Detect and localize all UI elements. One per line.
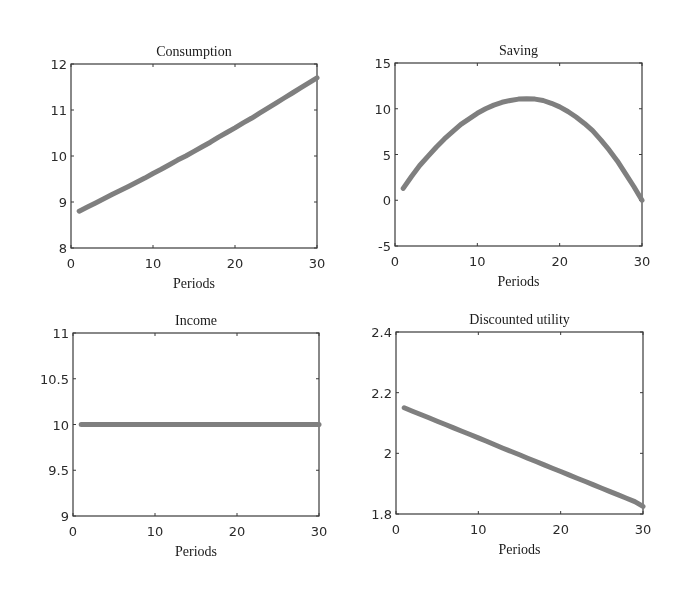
x-tick-label: 10 [470, 522, 487, 537]
x-tick-label: 30 [635, 522, 652, 537]
y-tick-label: 1.8 [371, 507, 392, 522]
subplot-svg: Discounted utilityPeriods01020301.822.22… [0, 0, 680, 594]
x-tick-label: 20 [552, 522, 569, 537]
y-tick-label: 2.2 [371, 386, 392, 401]
y-tick-label: 2 [384, 446, 392, 461]
subplot-title: Discounted utility [469, 312, 570, 327]
y-tick-label: 2.4 [371, 325, 392, 340]
x-axis-label: Periods [499, 542, 541, 557]
x-tick-label: 0 [392, 522, 400, 537]
axes-frame [396, 332, 643, 514]
